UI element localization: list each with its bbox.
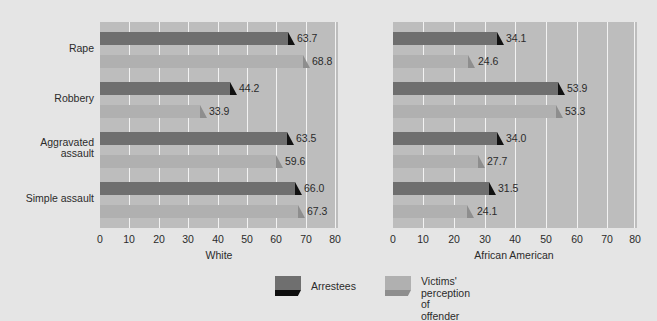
bar-3d-face (489, 182, 496, 195)
value-label-arrestees-simple-assault: 66.0 (304, 182, 324, 194)
bar-3d-face (200, 105, 207, 118)
xtick-white-60: 60 (266, 233, 286, 245)
bar-victims-robbery (393, 105, 556, 118)
bar-arrestees-rape (100, 32, 288, 45)
xtick-white-80: 80 (325, 233, 345, 245)
legend-label-arrestees: Arrestees (311, 281, 356, 293)
bar-chart-figure: 63.7 68.8 44.2 33.9 63.5 59.6 66.0 67.3 … (0, 0, 657, 321)
legend-swatch-bottom-face (385, 290, 411, 296)
bar-arrestees-simple-assault (100, 182, 295, 195)
bar-3d-face (295, 182, 302, 195)
value-label-victims-aggravated-assault: 27.7 (487, 155, 507, 167)
gridline-30 (485, 22, 486, 228)
xtick-aa-50: 50 (536, 233, 556, 245)
bar-3d-face (287, 132, 294, 145)
xtick-white-50: 50 (237, 233, 257, 245)
bar-victims-simple-assault (393, 205, 467, 218)
bar-3d-face (558, 82, 565, 95)
value-label-victims-rape: 68.8 (312, 55, 332, 67)
value-label-arrestees-robbery: 44.2 (239, 82, 259, 94)
value-label-arrestees-simple-assault: 31.5 (498, 182, 518, 194)
gridline-70 (306, 22, 307, 228)
value-label-victims-aggravated-assault: 59.6 (285, 155, 305, 167)
bar-victims-simple-assault (100, 205, 298, 218)
legend-label-victims: Victims' perception of offender (421, 276, 470, 321)
bar-3d-face (478, 155, 485, 168)
bar-3d-face (497, 132, 504, 145)
xtick-aa-0: 0 (383, 233, 403, 245)
gridline-10 (129, 22, 130, 228)
gridline-50 (247, 22, 248, 228)
xtick-aa-10: 10 (413, 233, 433, 245)
axis-title-white: White (169, 249, 269, 261)
chart-panel-african-american (393, 22, 637, 228)
xtick-aa-20: 20 (444, 233, 464, 245)
value-label-victims-rape: 24.6 (478, 55, 498, 67)
gridline-30 (188, 22, 189, 228)
bar-arrestees-aggravated-assault (100, 132, 287, 145)
chart-legend: Arrestees Victims' perception of offende… (0, 268, 657, 314)
gridline-20 (159, 22, 160, 228)
gridline-60 (577, 22, 578, 228)
legend-swatch-arrestees (275, 276, 301, 290)
gridline-10 (423, 22, 424, 228)
value-label-victims-simple-assault: 67.3 (307, 205, 327, 217)
category-label-aggravated-assault: assault (2, 148, 94, 160)
bar-victims-aggravated-assault (393, 155, 478, 168)
gridline-70 (607, 22, 608, 228)
bar-3d-face (497, 32, 504, 45)
bar-3d-face (230, 82, 237, 95)
value-label-victims-simple-assault: 24.1 (477, 205, 497, 217)
bar-3d-face (467, 205, 474, 218)
xtick-white-0: 0 (90, 233, 110, 245)
bar-3d-face (468, 55, 475, 68)
bar-victims-aggravated-assault (100, 155, 276, 168)
value-label-arrestees-aggravated-assault: 34.0 (506, 132, 526, 144)
category-label-robbery: Robbery (2, 93, 94, 105)
value-label-victims-robbery: 53.3 (565, 105, 585, 117)
legend-swatch-top-face (385, 276, 411, 290)
value-label-victims-robbery: 33.9 (209, 105, 229, 117)
gridline-40 (515, 22, 516, 228)
bar-3d-face (556, 105, 563, 118)
gridline-80 (634, 22, 635, 228)
xtick-white-30: 30 (178, 233, 198, 245)
xtick-white-40: 40 (208, 233, 228, 245)
bar-arrestees-robbery (393, 82, 558, 95)
axis-title-african-american: African American (454, 249, 574, 261)
bar-arrestees-aggravated-assault (393, 132, 497, 145)
xtick-aa-60: 60 (567, 233, 587, 245)
category-label-simple-assault: Simple assault (2, 193, 94, 205)
legend-swatch-victims (385, 276, 411, 290)
bar-3d-face (288, 32, 295, 45)
category-label-rape: Rape (2, 43, 94, 55)
gridline-20 (454, 22, 455, 228)
bar-victims-rape (100, 55, 303, 68)
xtick-aa-40: 40 (505, 233, 525, 245)
xtick-aa-70: 70 (597, 233, 617, 245)
value-label-arrestees-aggravated-assault: 63.5 (296, 132, 316, 144)
bar-3d-face (276, 155, 283, 168)
value-label-arrestees-robbery: 53.9 (567, 82, 587, 94)
gridline-60 (276, 22, 277, 228)
xtick-white-10: 10 (119, 233, 139, 245)
bar-arrestees-rape (393, 32, 497, 45)
bar-arrestees-robbery (100, 82, 230, 95)
gridline-80 (335, 22, 336, 228)
bar-victims-rape (393, 55, 468, 68)
legend-swatch-top-face (275, 276, 301, 290)
gridline-50 (546, 22, 547, 228)
value-label-arrestees-rape: 34.1 (506, 32, 526, 44)
chart-panel-white (100, 22, 338, 228)
bar-victims-robbery (100, 105, 200, 118)
value-label-arrestees-rape: 63.7 (297, 32, 317, 44)
xtick-aa-30: 30 (475, 233, 495, 245)
gridline-40 (218, 22, 219, 228)
xtick-white-70: 70 (296, 233, 316, 245)
xtick-white-20: 20 (149, 233, 169, 245)
bar-3d-face (298, 205, 305, 218)
xtick-aa-80: 80 (625, 233, 645, 245)
legend-swatch-bottom-face (275, 290, 301, 296)
bar-arrestees-simple-assault (393, 182, 489, 195)
